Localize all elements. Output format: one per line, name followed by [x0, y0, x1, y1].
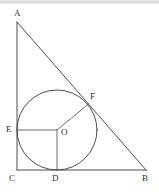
vertex-label-a: A [14, 9, 21, 18]
tangent-point-label-e: E [6, 125, 12, 134]
center-label-o: O [61, 128, 68, 137]
triangle-circle-svg [0, 0, 159, 194]
geometry-figure: A B C D E F O [0, 0, 159, 194]
segment-ab [17, 22, 147, 171]
tangent-point-label-d: D [52, 174, 59, 183]
tangent-point-label-f: F [90, 92, 95, 101]
vertex-label-b: B [142, 174, 148, 183]
vertex-label-c: C [9, 174, 15, 183]
